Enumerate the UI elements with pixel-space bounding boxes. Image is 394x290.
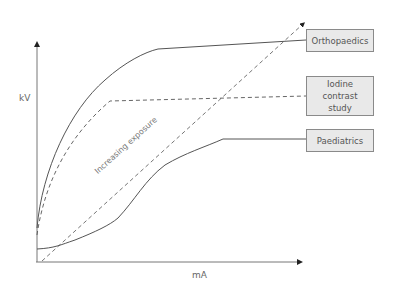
paediatrics-curve — [37, 139, 306, 249]
iodine-label-line-2: contrast — [322, 90, 357, 102]
iodine-contrast-curve — [37, 96, 306, 235]
paediatrics-label: Paediatrics — [317, 135, 363, 147]
increasing-exposure-arrow — [42, 24, 303, 261]
iodine-label-line-3: study — [328, 102, 352, 114]
y-axis-label: kV — [19, 93, 30, 103]
orthopaedics-curve — [37, 40, 306, 228]
iodine-contrast-label-box: Iodine contrast study — [306, 76, 374, 116]
iodine-label-line-1: Iodine — [327, 78, 353, 90]
orthopaedics-label: Orthopaedics — [312, 35, 369, 47]
paediatrics-label-box: Paediatrics — [306, 129, 374, 152]
orthopaedics-label-box: Orthopaedics — [306, 29, 374, 52]
x-axis-label: mA — [192, 270, 207, 280]
